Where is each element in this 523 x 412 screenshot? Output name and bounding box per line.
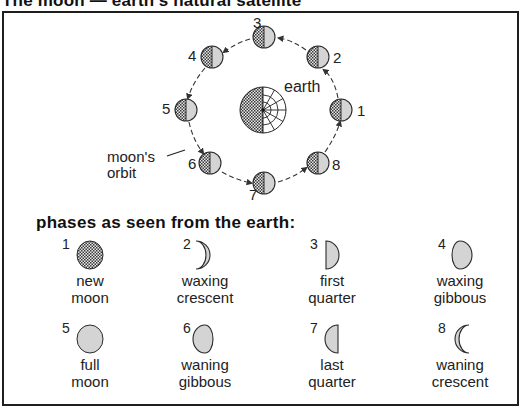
orbit-position-number: 8 <box>332 156 340 173</box>
waxing-crescent-moon-icon <box>155 238 255 272</box>
orbit-position-number: 4 <box>188 47 196 64</box>
earth-icon <box>240 87 286 133</box>
phase-name-line2: quarter <box>282 289 382 306</box>
first-quarter-moon-icon <box>282 238 382 272</box>
orbit-moon-icon <box>330 99 352 121</box>
phases-heading: phases as seen from the earth: <box>36 213 295 233</box>
waning-crescent-moon-icon <box>410 322 510 356</box>
full-moon-icon <box>40 322 140 356</box>
phase-number: 2 <box>183 236 191 252</box>
phase-item: 7 lastquarter <box>282 322 382 390</box>
phase-name-line1: waning <box>410 356 510 373</box>
phase-number: 1 <box>62 236 70 252</box>
orbit-label-leader <box>167 150 185 156</box>
orbit-moon-icon <box>307 152 329 174</box>
orbit-moon-icon <box>307 46 329 68</box>
waning-gibbous-moon-icon <box>155 322 255 356</box>
phase-item: 4 waxinggibbous <box>410 238 510 306</box>
new-moon-icon <box>40 238 140 272</box>
phase-item: 2 waxingcrescent <box>155 238 255 306</box>
orbit-position-number: 7 <box>249 186 257 203</box>
phase-number: 3 <box>310 236 318 252</box>
phase-name-line1: waning <box>155 356 255 373</box>
orbit-position-number: 1 <box>357 102 365 119</box>
phase-name-line1: waxing <box>410 272 510 289</box>
phase-name-line1: first <box>282 272 382 289</box>
phase-item: 3 firstquarter <box>282 238 382 306</box>
phase-name-line2: quarter <box>282 373 382 390</box>
orbit-label-line1: moon's <box>107 148 155 165</box>
phase-name-line1: full <box>40 356 140 373</box>
phase-item: 8 waningcrescent <box>410 322 510 390</box>
phase-number: 5 <box>62 320 70 336</box>
phase-item: 5 fullmoon <box>40 322 140 390</box>
phase-name-line2: crescent <box>410 373 510 390</box>
phase-name-line2: moon <box>40 373 140 390</box>
phase-name-line2: gibbous <box>155 373 255 390</box>
phase-number: 6 <box>183 320 191 336</box>
waxing-gibbous-moon-icon <box>410 238 510 272</box>
orbit-position-number: 3 <box>253 14 261 31</box>
phase-number: 7 <box>310 320 318 336</box>
last-quarter-moon-icon <box>282 322 382 356</box>
phase-name-line1: waxing <box>155 272 255 289</box>
orbit-label-line2: orbit <box>107 164 137 181</box>
phase-number: 8 <box>438 320 446 336</box>
phase-number: 4 <box>438 236 446 252</box>
phase-item: 1 newmoon <box>40 238 140 306</box>
orbit-position-number: 2 <box>333 49 341 66</box>
orbit-position-number: 6 <box>188 155 196 172</box>
phase-item: 6 waninggibbous <box>155 322 255 390</box>
earth-label: earth <box>284 78 320 95</box>
orbit-moon-icon <box>199 152 221 174</box>
phase-name-line2: crescent <box>155 289 255 306</box>
orbit-position-number: 5 <box>162 100 170 117</box>
phase-name-line2: gibbous <box>410 289 510 306</box>
phase-name-line1: last <box>282 356 382 373</box>
phase-name-line2: moon <box>40 289 140 306</box>
orbit-moon-icon <box>175 99 197 121</box>
phase-name-line1: new <box>40 272 140 289</box>
orbit-moon-icon <box>201 46 223 68</box>
